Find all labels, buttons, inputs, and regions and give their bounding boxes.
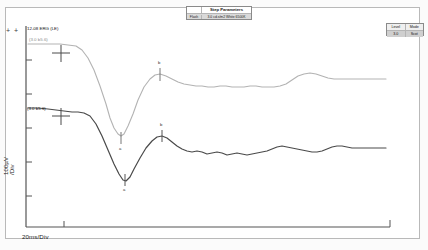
marker-label-b-lower: b	[160, 122, 162, 127]
step-parameters-row: Flash 3.0 cd.s/m2 White 6500K	[187, 14, 251, 19]
cursor-marker-2[interactable]: +	[14, 27, 18, 34]
legend-value-mode: Scot	[405, 31, 424, 37]
step-parameters-title: Step Parameters	[202, 7, 251, 13]
y-axis-ticks	[26, 60, 32, 196]
x-axis-ticks	[64, 220, 390, 227]
step-parameters-header: Step Parameters	[187, 7, 251, 14]
x-axis-label: 20ms/Div	[22, 233, 49, 240]
erg-chart-window: Step Parameters Flash 3.0 cd.s/m2 White …	[0, 0, 428, 250]
legend-box[interactable]: Level Mode 3.0 Scot	[386, 23, 424, 36]
trace-upper-path	[28, 44, 386, 136]
crosshair-upper[interactable]	[52, 45, 70, 62]
legend-value-level: 3.0	[387, 31, 405, 37]
step-parameter-value: 3.0 cd.s/m2 White 6500K	[202, 15, 251, 19]
crosshair-lower[interactable]	[52, 108, 70, 125]
trace-lower-path	[28, 108, 386, 181]
trace-upper-sublabel: (3.0 b5.6)	[29, 37, 48, 42]
marker-label-b-upper: b	[158, 60, 160, 65]
legend-value-row: 3.0 Scot	[387, 30, 423, 37]
marker-label-a-upper: a	[119, 146, 121, 151]
marker-label-a-lower: a	[123, 187, 125, 192]
trace-lower-label: (3.0 b5.6)	[27, 106, 46, 111]
trace-upper-label: 12-08 ERG (LE)	[27, 26, 58, 31]
step-color-swatch	[187, 7, 202, 13]
cursor-marker-1[interactable]: +	[6, 27, 10, 34]
y-axis-label-unit: /Div	[8, 164, 15, 175]
step-parameters-box[interactable]: Step Parameters Flash 3.0 cd.s/m2 White …	[186, 6, 252, 20]
waveform-svg	[24, 24, 394, 229]
step-parameter-type: Flash	[187, 15, 202, 19]
plot-area[interactable]: a b a b	[24, 24, 394, 229]
